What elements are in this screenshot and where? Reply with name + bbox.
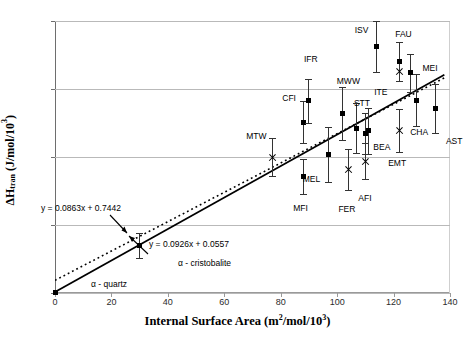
error-cap-MTW-lower: [269, 176, 276, 177]
point-label-IFR: IFR: [304, 54, 318, 64]
point-label-FER: FER: [338, 204, 355, 214]
x-tick-label-80: 80: [261, 297, 301, 307]
error-cap-FER-lower: [345, 190, 352, 191]
x-tick-mark-40: [168, 293, 169, 297]
x-axis-title-mid: /mol/10: [283, 314, 323, 328]
fit-line-solid: [55, 75, 444, 292]
x-tick-mark-100: [337, 293, 338, 297]
plot-area: 0481216 020406080100120140 CFIIFRMFIMELM…: [55, 21, 450, 293]
data-point-AST: [433, 106, 438, 111]
error-cap-MEI-upper: [407, 54, 414, 55]
point-label-ITE: ITE: [374, 87, 387, 97]
point-label-EMT: EMT: [388, 158, 406, 168]
gridline-y-0: [55, 293, 450, 294]
data-point-ITE: [366, 128, 371, 133]
data-point-CHA: [414, 98, 419, 103]
x-tick-label-0: 0: [35, 297, 75, 307]
data-point-cristobalite: [137, 243, 142, 248]
point-label-ISV: ISV: [355, 25, 369, 35]
point-label-FAU: FAU: [395, 29, 412, 39]
point-label-BEA: BEA: [373, 142, 390, 152]
x-tick-mark-80: [281, 293, 282, 297]
point-label-MTW: MTW: [246, 131, 266, 141]
point-label-MFI: MFI: [293, 203, 308, 213]
data-point-ISV: [374, 44, 379, 49]
data-point-AFI: [361, 157, 370, 166]
x-tick-mark-140: [450, 293, 451, 297]
error-cap-MEL-upper: [325, 127, 332, 128]
x-tick-mark-120: [394, 293, 395, 297]
x-tick-label-20: 20: [91, 297, 131, 307]
point-label-MEI: MEI: [423, 63, 438, 73]
phase-label-cristobalite: α - cristobalite: [178, 258, 231, 268]
x-tick-label-40: 40: [148, 297, 188, 307]
error-cap-MTW-upper: [269, 138, 276, 139]
x-tick-label-100: 100: [317, 297, 357, 307]
data-point-EMT: [395, 126, 404, 135]
y-axis-title-close: ): [3, 115, 17, 119]
point-label-STT: STT: [354, 98, 370, 108]
error-cap-FAU-lower: [396, 81, 403, 82]
point-label-AFI: AFI: [358, 193, 371, 203]
equation-solid-label: y = 0.0926x + 0.0557: [149, 239, 229, 249]
y-axis-title-delta: ΔH: [3, 188, 17, 205]
phase-label-quartz: α - quartz: [91, 279, 127, 289]
y-axis-title-sup: 3: [0, 119, 9, 123]
x-axis-title-main: Internal Surface Area (m: [145, 314, 279, 328]
error-cap-MFI-upper: [300, 159, 307, 160]
x-tick-mark-60: [224, 293, 225, 297]
error-cap-MEI-lower: [407, 92, 414, 93]
error-cap-α - cristobalite-upper: [136, 233, 143, 234]
point-label-AST: AST: [446, 136, 463, 146]
y-axis-title: ΔHtran (J/mol/103): [0, 60, 20, 260]
error-cap-AFI-lower: [362, 179, 369, 180]
data-point-MWW: [340, 111, 345, 116]
error-cap-ISV-upper: [373, 21, 380, 22]
error-cap-ISV-lower: [373, 72, 380, 73]
data-point-FAU: [395, 67, 404, 76]
x-tick-label-140: 140: [430, 297, 470, 307]
equation-dotted-label: y = 0.0863x + 0.7442: [41, 203, 121, 213]
error-cap-AFI-upper: [362, 143, 369, 144]
error-cap-FAU-upper: [396, 42, 403, 43]
data-point-IFR: [306, 98, 311, 103]
data-point-MEL: [326, 152, 331, 157]
x-tick-label-120: 120: [374, 297, 414, 307]
data-point-MTW: [268, 153, 277, 162]
data-point-FAU: [397, 59, 402, 64]
error-cap-MEL-lower: [325, 182, 332, 183]
error-cap-EMT-upper: [396, 109, 403, 110]
x-axis-title: Internal Surface Area (m2/mol/103): [0, 313, 475, 329]
y-axis-title-sub: tran: [8, 174, 17, 189]
error-cap-MWW-upper: [339, 87, 346, 88]
error-cap-STT-lower: [353, 153, 360, 154]
y-axis-title-unit: (J/mol/10: [3, 123, 17, 174]
error-cap-MWW-lower: [339, 140, 346, 141]
point-label-MEL: MEL: [303, 174, 320, 184]
chart-figure: ΔHtran (J/mol/103) Internal Surface Area…: [0, 0, 475, 342]
point-label-MWW: MWW: [337, 76, 360, 86]
error-cap-CFI-lower: [300, 143, 307, 144]
point-label-CHA: CHA: [410, 127, 428, 137]
error-cap-IFR-upper: [305, 79, 312, 80]
error-cap-α - cristobalite-lower: [136, 258, 143, 259]
error-cap-MFI-lower: [300, 194, 307, 195]
error-cap-AST-lower: [432, 133, 439, 134]
point-label-CFI: CFI: [282, 93, 296, 103]
error-cap-IFR-lower: [305, 123, 312, 124]
error-cap-AST-upper: [432, 84, 439, 85]
error-cap-EMT-lower: [396, 152, 403, 153]
error-cap-FER-upper: [345, 149, 352, 150]
x-tick-mark-20: [111, 293, 112, 297]
x-tick-label-60: 60: [204, 297, 244, 307]
data-point-quartz: [53, 290, 58, 295]
error-cap-CHA-upper: [413, 74, 420, 75]
data-point-FER: [344, 165, 353, 174]
x-axis-title-close: ): [326, 314, 330, 328]
data-point-STT: [354, 126, 359, 131]
